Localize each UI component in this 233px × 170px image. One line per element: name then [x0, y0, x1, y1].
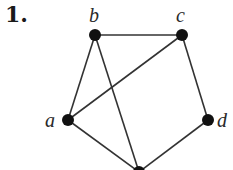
node-label-c: c	[176, 5, 185, 25]
graph-figure: 1. b c a d	[0, 0, 233, 170]
graph-canvas	[0, 0, 233, 170]
edge-c-d	[182, 35, 208, 120]
graph-edges	[68, 35, 208, 170]
vertex-d	[202, 114, 214, 126]
edge-b-e	[95, 35, 139, 170]
vertex-c	[176, 29, 188, 41]
node-label-d: d	[217, 110, 227, 130]
edge-d-e	[139, 120, 208, 170]
node-label-a: a	[45, 110, 55, 130]
vertex-b	[89, 29, 101, 41]
vertex-e	[133, 166, 145, 170]
node-label-b: b	[89, 5, 99, 25]
edge-b-a	[68, 35, 95, 120]
edge-c-a	[68, 35, 182, 120]
edge-a-e	[68, 120, 139, 170]
vertex-a	[62, 114, 74, 126]
graph-nodes	[62, 29, 214, 170]
